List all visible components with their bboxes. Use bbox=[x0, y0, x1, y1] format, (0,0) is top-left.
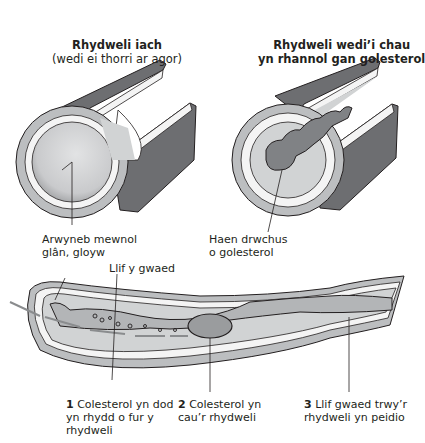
label-step-3: 3 Llif gwaed trwy’r rhydweli yn peidio bbox=[304, 398, 407, 424]
long-artery-illustration bbox=[10, 274, 404, 392]
label-inner-surface: Arwyneb mewnol glân, gloyw bbox=[42, 233, 137, 259]
healthy-artery-title-text: Rhydweli iach bbox=[72, 38, 162, 52]
label-step-1: 1 Colesterol yn dod yn rhydd o fur y rhy… bbox=[66, 398, 173, 437]
blocked-artery-illustration bbox=[232, 58, 398, 232]
label-blood-flow: Llif y gwaed bbox=[109, 262, 175, 275]
blocked-artery-title: Rhydweli wedi’i chau yn rhannol gan gole… bbox=[258, 38, 425, 66]
healthy-artery-illustration bbox=[16, 60, 196, 225]
healthy-artery-title: Rhydweli iach (wedi ei thorri ar agor) bbox=[52, 38, 182, 66]
label-cholesterol-layer: Haen drwchus o golesterol bbox=[209, 233, 287, 259]
blocked-artery-title-line1: Rhydweli wedi’i chau bbox=[258, 38, 425, 52]
label-step-2: 2 Colesterol yn cau’r rhydweli bbox=[178, 398, 261, 424]
blocked-artery-title-line2: yn rhannol gan golesterol bbox=[258, 52, 425, 66]
healthy-artery-subtitle: (wedi ei thorri ar agor) bbox=[52, 52, 182, 66]
